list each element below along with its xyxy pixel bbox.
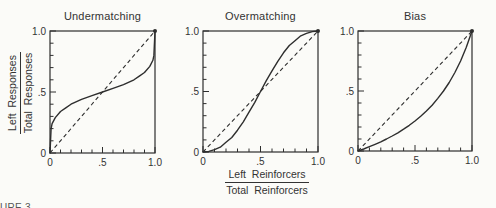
- undermatching-chart: 0.51.00.51.0: [22, 22, 165, 174]
- x-axis-ticks: [50, 147, 155, 153]
- x-tick-label: 0: [200, 156, 206, 167]
- caption-fragment: URE 3.: [0, 202, 300, 208]
- x-axis-ticks: [358, 145, 472, 151]
- chart-title-bias: Bias: [358, 10, 472, 22]
- y-tick-label: 0: [40, 148, 46, 159]
- identity-line: [358, 31, 472, 151]
- y-tick-label: 1.0: [32, 26, 46, 37]
- x-tick-label: 1.0: [465, 155, 479, 166]
- y-tick-label: 0: [348, 146, 354, 157]
- y-axis-ticks: [203, 31, 209, 152]
- x-axis-fraction: Left Reinforcers Total Reinforcers: [225, 168, 308, 197]
- x-tick-label: .5: [98, 157, 107, 168]
- y-tick-label: .5: [38, 87, 47, 98]
- chart-title-overmatching: Overmatching: [203, 10, 318, 22]
- x-axis-label-numerator: Left Reinforcers: [225, 168, 308, 183]
- x-tick-label: .5: [411, 155, 420, 166]
- corner-marker: [470, 29, 474, 33]
- y-tick-label: .5: [191, 86, 200, 97]
- x-axis-label-denominator: Total Reinforcers: [225, 183, 308, 197]
- x-tick-label: 0: [355, 155, 361, 166]
- y-axis-label-numerator: Left Responses: [6, 52, 21, 134]
- y-tick-label: .5: [346, 86, 355, 97]
- x-axis-label: Left Reinforcers Total Reinforcers: [219, 168, 315, 198]
- x-tick-label: .5: [256, 156, 265, 167]
- chart-title-undermatching: Undermatching: [50, 10, 155, 22]
- y-tick-label: 1.0: [340, 26, 354, 37]
- bias-chart: 0.51.00.51.0: [330, 22, 482, 172]
- corner-marker: [316, 29, 320, 33]
- y-axis-ticks: [358, 31, 364, 151]
- y-tick-label: 1.0: [185, 26, 199, 37]
- corner-marker: [153, 29, 157, 33]
- x-tick-label: 1.0: [311, 156, 325, 167]
- y-tick-label: 0: [193, 147, 199, 158]
- overmatching-chart: 0.51.00.51.0: [175, 22, 328, 173]
- x-tick-label: 1.0: [148, 157, 162, 168]
- x-tick-label: 0: [47, 157, 53, 168]
